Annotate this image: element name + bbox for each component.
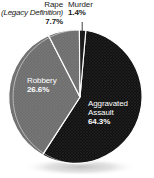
slice-label-rape-legacy: Rape (Legacy Definition) 7.7% xyxy=(0,1,63,26)
slice-label-assault-percent: 64.3% xyxy=(88,117,128,126)
slice-label-robbery: Robbery 26.6% xyxy=(27,76,57,94)
slice-label-murder-percent: 1.4% xyxy=(68,9,114,17)
slice-label-robbery-name: Robbery xyxy=(27,76,57,85)
slice-label-rape-percent: 7.7% xyxy=(0,18,63,26)
pie-chart-graphic xyxy=(0,0,154,178)
pie-chart-figure: Rape (Legacy Definition) 7.7% Murder 1.4… xyxy=(0,0,154,178)
slice-label-aggravated-assault: Aggravated Assault 64.3% xyxy=(88,99,128,126)
slice-label-assault-name-line2: Assault xyxy=(88,108,128,117)
slice-label-assault-name: Aggravated xyxy=(88,99,128,108)
slice-label-robbery-percent: 26.6% xyxy=(27,85,57,94)
slice-label-murder: Murder 1.4% xyxy=(68,1,114,18)
